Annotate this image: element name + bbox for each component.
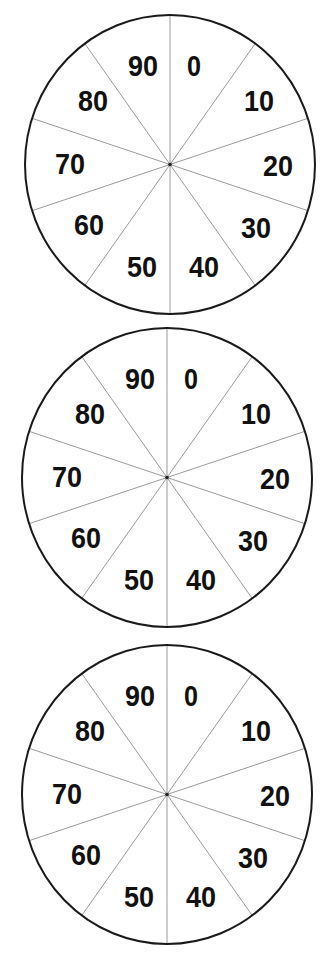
dial-center-dot — [168, 163, 172, 167]
dial-1: 0 10 20 30 40 50 60 70 80 90 — [25, 15, 315, 314]
dial-label-70: 70 — [52, 461, 82, 493]
dial-label-60: 60 — [71, 522, 101, 554]
dials-canvas: 0 10 20 30 40 50 60 70 80 90 0 10 20 30 … — [0, 0, 336, 959]
dial-label-40: 40 — [189, 251, 219, 283]
dial-label-10: 10 — [244, 85, 274, 117]
dial-label-30: 30 — [241, 212, 271, 244]
dial-2: 0 10 20 30 40 50 60 70 80 90 — [22, 328, 312, 627]
dial-label-70: 70 — [55, 148, 85, 180]
dial-label-10: 10 — [241, 715, 271, 747]
dial-label-40: 40 — [186, 881, 216, 913]
dial-center-dot — [165, 793, 169, 797]
dial-label-80: 80 — [78, 85, 108, 117]
dial-label-0: 0 — [187, 50, 201, 82]
dial-label-20: 20 — [263, 150, 293, 182]
dial-label-80: 80 — [75, 715, 105, 747]
dial-center-dot — [165, 476, 169, 480]
dial-label-50: 50 — [124, 564, 154, 596]
dial-label-0: 0 — [184, 680, 198, 712]
dial-3: 0 10 20 30 40 50 60 70 80 90 — [22, 645, 312, 944]
dial-label-60: 60 — [71, 839, 101, 871]
dial-label-30: 30 — [238, 842, 268, 874]
dial-label-10: 10 — [241, 398, 271, 430]
dial-label-90: 90 — [125, 680, 155, 712]
dial-label-60: 60 — [74, 209, 104, 241]
dial-label-90: 90 — [128, 50, 158, 82]
dial-label-0: 0 — [184, 363, 198, 395]
dial-label-30: 30 — [238, 525, 268, 557]
dial-label-40: 40 — [186, 564, 216, 596]
dial-label-70: 70 — [52, 778, 82, 810]
dial-label-20: 20 — [260, 780, 290, 812]
dial-label-80: 80 — [75, 398, 105, 430]
dial-label-50: 50 — [124, 881, 154, 913]
dial-label-90: 90 — [125, 363, 155, 395]
dial-label-50: 50 — [127, 251, 157, 283]
dial-label-20: 20 — [260, 463, 290, 495]
